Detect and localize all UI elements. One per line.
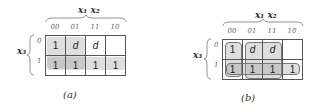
kmap-a-cell-0-11: d xyxy=(86,36,106,56)
kmap-b-col-11: 11 xyxy=(262,27,282,35)
kmap-a-col-01: 01 xyxy=(65,23,85,31)
kmap-a-left-brace xyxy=(27,34,35,76)
kmap-b-left-brace xyxy=(204,38,212,80)
kmap-a-col-11: 11 xyxy=(85,23,105,31)
kmap-b-cell-0-11: d xyxy=(263,40,283,60)
kmap-b-cell-1-01: 1 xyxy=(243,60,263,79)
kmap-a-cell-1-01: 1 xyxy=(66,56,86,75)
kmap-a-cell-0-00: 1 xyxy=(46,36,66,56)
kmap-a-cell-0-10 xyxy=(106,36,125,56)
kmap-a-col-10: 10 xyxy=(105,23,125,31)
kmap-b-col-10: 10 xyxy=(282,27,302,35)
kmap-a-cell-0-01: d xyxy=(66,36,86,56)
kmap-a-row-0: 0 xyxy=(37,37,41,45)
kmap-b-top-brace xyxy=(222,19,304,27)
kmap-a-col-00: 00 xyxy=(45,23,65,31)
kmap-a-grid: 1 d d 1 1 1 1 xyxy=(45,35,126,76)
kmap-b-grid: 1 d d 1 1 1 1 xyxy=(222,39,303,80)
kmap-a-caption: (a) xyxy=(63,89,77,100)
kmap-b-row-1: 1 xyxy=(214,61,218,69)
kmap-a-top-variable: x₁ x₂ xyxy=(78,5,100,15)
kmap-a-left-variable: x₃ xyxy=(17,46,26,56)
kmap-b: x₁ x₂ 00 01 11 10 x₃ 0 1 1 d d 1 1 1 1 (… xyxy=(160,0,320,112)
kmap-b-col-00: 00 xyxy=(222,27,242,35)
kmap-a-top-brace xyxy=(45,15,127,23)
kmap-b-cell-1-10: 1 xyxy=(283,60,302,79)
kmap-a-cell-1-11: 1 xyxy=(86,56,106,75)
kmap-a: x₁ x₂ 00 01 11 10 x₃ 0 1 1 d d 1 1 1 1 (… xyxy=(0,0,160,112)
kmap-b-cell-0-10 xyxy=(283,40,302,60)
kmap-a-cell-1-10: 1 xyxy=(106,56,125,75)
kmap-b-left-variable: x₃ xyxy=(193,50,202,60)
kmap-b-cell-1-11: 1 xyxy=(263,60,283,79)
kmap-b-col-01: 01 xyxy=(242,27,262,35)
kmap-a-cell-1-00: 1 xyxy=(46,56,66,75)
kmap-b-cell-0-01: d xyxy=(243,40,263,60)
kmap-b-cell-0-00: 1 xyxy=(223,40,243,60)
kmap-b-caption: (b) xyxy=(241,92,255,103)
kmap-b-row-0: 0 xyxy=(214,41,218,49)
kmap-b-cell-1-00: 1 xyxy=(223,60,243,79)
kmap-a-row-1: 1 xyxy=(37,57,41,65)
